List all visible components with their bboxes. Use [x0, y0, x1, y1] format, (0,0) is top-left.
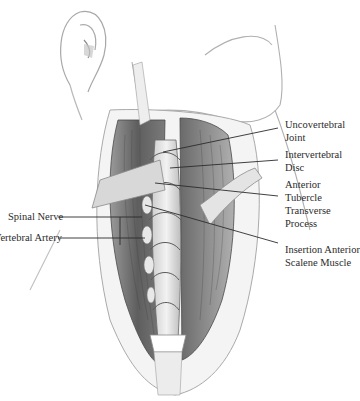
anatomy-figure: Uncovertebral Joint Intervertebral Disc …: [0, 0, 360, 401]
label-anterior-tubercle-transverse-process: Anterior Tubercle Transverse Process: [285, 178, 331, 230]
label-intervertebral-disc: Intervertebral Disc: [285, 148, 342, 174]
label-spinal-nerve: Spinal Nerve: [8, 210, 63, 223]
label-vertebral-artery: Vertebral Artery: [0, 231, 62, 244]
label-uncovertebral-joint: Uncovertebral Joint: [285, 118, 345, 144]
ear: [61, 12, 106, 120]
label-insertion-anterior-scalene-muscle: Insertion Anterior Scalene Muscle: [285, 243, 360, 269]
